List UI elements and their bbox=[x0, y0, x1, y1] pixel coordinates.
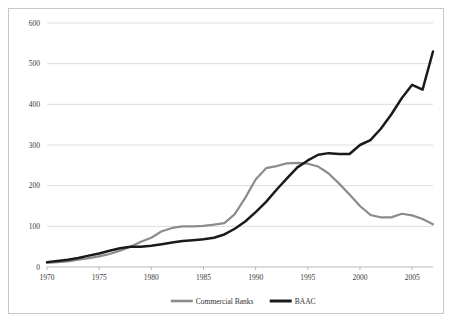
chart-legend: Commercial BanksBAAC bbox=[171, 297, 316, 306]
y-tick-label: 500 bbox=[29, 59, 41, 68]
y-tick-label: 400 bbox=[29, 100, 41, 109]
y-axis-tick-labels: 0100200300400500600 bbox=[29, 19, 41, 272]
x-tick-label: 1985 bbox=[196, 273, 211, 282]
gridlines bbox=[47, 23, 433, 226]
x-tick-label: 1990 bbox=[248, 273, 263, 282]
x-tick-label: 2005 bbox=[405, 273, 420, 282]
legend-label: BAAC bbox=[295, 297, 316, 306]
x-tick-label: 2000 bbox=[352, 273, 367, 282]
x-tick-label: 1975 bbox=[92, 273, 107, 282]
x-tick-label: 1980 bbox=[144, 273, 159, 282]
line-chart: 0100200300400500600 19701975198019851990… bbox=[9, 9, 443, 313]
data-series bbox=[47, 51, 433, 262]
x-tick-label: 1995 bbox=[300, 273, 315, 282]
legend-label: Commercial Banks bbox=[196, 297, 254, 306]
y-tick-label: 100 bbox=[29, 222, 41, 231]
chart-container: 0100200300400500600 19701975198019851990… bbox=[8, 8, 444, 314]
x-tick-label: 1970 bbox=[40, 273, 55, 282]
x-axis-tick-labels: 19701975198019851990199520002005 bbox=[40, 267, 420, 282]
y-tick-label: 200 bbox=[29, 181, 41, 190]
y-tick-label: 300 bbox=[29, 141, 41, 150]
series-line-commercial-banks bbox=[47, 163, 433, 263]
y-tick-label: 0 bbox=[36, 263, 40, 272]
series-line-baac bbox=[47, 51, 433, 262]
y-tick-label: 600 bbox=[29, 19, 41, 28]
